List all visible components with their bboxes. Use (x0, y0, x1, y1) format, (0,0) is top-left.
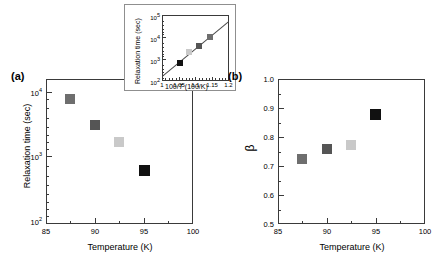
panel-a-xtick-major (144, 218, 145, 224)
inset-xtick-minor (165, 78, 166, 81)
panel-b-xtick-minor (351, 221, 352, 224)
panel-a-xtick-minor (168, 221, 169, 224)
panel-a-ytick-minor (46, 202, 49, 203)
panel-b-xtick-minor (400, 221, 401, 224)
panel-a-ytick-1e3: 103 (24, 151, 42, 162)
data-point-a-4 (139, 165, 150, 176)
panel-b-plot-frame (278, 79, 425, 224)
figure-root: (a) Relaxation time (sec) 104 103 102 (0, 0, 441, 269)
ytick-exponent: 3 (157, 56, 160, 62)
inset-xtick-minor (189, 78, 190, 81)
ytick-exponent: 4 (39, 87, 42, 93)
panel-a-ytick-minor (46, 166, 49, 167)
panel-a-xtick-major (192, 218, 193, 224)
inset-xtick-major (162, 77, 163, 81)
panel-a-ytick-minor (46, 176, 49, 177)
ytick-exponent: 4 (157, 34, 160, 40)
panel-b-xtick-label: 90 (317, 227, 337, 236)
panel-b-ytick-minor (278, 123, 281, 124)
panel-b-ytick-minor (278, 210, 281, 211)
data-point-b-3 (346, 140, 356, 150)
inset-data-point-3 (196, 43, 202, 49)
panel-b-xtick-label: 100 (415, 227, 435, 236)
inset-ytick-minor (162, 43, 164, 44)
panel-b-ytick-minor (278, 94, 281, 95)
panel-a-label: (a) (11, 70, 24, 82)
inset-xtick-minor (172, 78, 173, 81)
ytick-exponent: 2 (39, 216, 42, 222)
panel-b-ytick-label: 0.7 (255, 162, 274, 171)
panel-b-xtick-minor (302, 221, 303, 224)
panel-a-ytick-minor (46, 209, 49, 210)
ytick-mantissa: 10 (150, 59, 157, 65)
panel-a-ytick-major (46, 156, 52, 157)
panel-b-ytick-label: 0.6 (255, 191, 274, 200)
panel-a-x-axis-title: Temperature (K) (60, 242, 180, 252)
panel-b-xtick-label: 95 (366, 227, 386, 236)
ytick-mantissa: 10 (150, 15, 157, 21)
panel-a-xtick-major (95, 218, 96, 224)
data-point-b-4 (370, 109, 381, 120)
inset-xtick-minor (186, 78, 187, 81)
inset-xlabel-prefix: 100/ (165, 83, 179, 90)
ytick-mantissa: 10 (31, 153, 39, 162)
inset-data-point-2 (186, 49, 192, 55)
panel-a-ytick-major (46, 92, 52, 93)
panel-a-ytick-minor (46, 127, 49, 128)
panel-b-xtick-label: 85 (268, 227, 288, 236)
panel-a-xtick-label: 90 (85, 227, 105, 236)
panel-b-ytick-major (278, 137, 284, 138)
panel-b-xtick-major (278, 218, 279, 224)
inset-ytick-major (162, 59, 166, 60)
panel-a-ytick-1e2: 102 (24, 216, 42, 227)
inset-xtick-major (195, 77, 196, 81)
inset-ytick-minor (162, 69, 164, 70)
inset-ytick-major (162, 37, 166, 38)
panel-a-ytick-minor (46, 99, 49, 100)
panel-a-ytick-minor (46, 108, 49, 109)
inset-data-point-1 (177, 60, 183, 66)
inset-x-axis-title: 100/T (100/K) (165, 83, 208, 90)
panel-b-xtick-major (327, 218, 328, 224)
inset-ytick-minor (162, 34, 164, 35)
data-point-b-1 (297, 154, 307, 164)
inset-xtick-minor (202, 78, 203, 81)
inset-ytick-1e3: 103 (143, 56, 160, 65)
ytick-mantissa: 10 (150, 37, 157, 43)
inset-xtick-minor (182, 78, 183, 81)
panel-b: (b) β 1.0 0.9 0.8 0.7 0.6 0.5 85 (215, 0, 441, 269)
panel-a-xtick-minor (70, 221, 71, 224)
panel-b-ytick-label: 0.8 (255, 133, 274, 142)
inset-data-point-4 (207, 34, 213, 40)
panel-b-ytick-major (278, 166, 284, 167)
inset-ytick-minor (162, 25, 164, 26)
inset-xtick-major (179, 77, 180, 81)
panel-b-x-axis-title: Temperature (K) (292, 242, 412, 252)
panel-b-ytick-minor (278, 181, 281, 182)
data-point-a-2 (90, 120, 100, 130)
inset-ytick-1e4: 104 (143, 34, 160, 43)
panel-a-xtick-label: 95 (134, 227, 154, 236)
panel-a-ytick-minor (46, 185, 49, 186)
inset-ytick-minor (162, 54, 164, 55)
panel-b-ytick-major (278, 195, 284, 196)
panel-b-xtick-major (376, 218, 377, 224)
ytick-mantissa: 10 (31, 218, 39, 227)
inset-xtick-major (212, 77, 213, 81)
inset-xtick-minor (206, 78, 207, 81)
inset-xtick-minor (192, 78, 193, 81)
ytick-mantissa: 10 (31, 89, 39, 98)
panel-a-ytick-minor (46, 135, 49, 136)
data-point-b-2 (322, 144, 332, 154)
panel-a-ytick-minor (46, 149, 49, 150)
inset-ytick-minor (162, 29, 164, 30)
panel-a-y-axis-title: Relaxation time (sec) (22, 86, 32, 206)
panel-b-ytick-minor (278, 152, 281, 153)
panel-b-ytick-label: 0.9 (255, 104, 274, 113)
inset-ytick-minor (162, 56, 164, 57)
ytick-exponent: 3 (39, 151, 42, 157)
inset-ytick-minor (162, 51, 164, 52)
data-point-a-3 (114, 137, 124, 147)
panel-b-ytick-major (278, 79, 284, 80)
inset-ytick-1e5: 105 (143, 12, 160, 21)
